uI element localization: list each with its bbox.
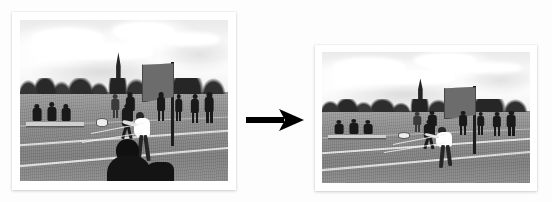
figure-leg [439, 145, 446, 168]
result-photo-image [322, 52, 530, 183]
figure-body [507, 115, 516, 127]
figure-leg [116, 110, 118, 119]
figure-player [414, 112, 421, 132]
cloud-shape [112, 23, 174, 39]
figure-leg [192, 112, 194, 123]
figure-leg [445, 145, 452, 167]
figure-body [364, 124, 373, 135]
figure-leg [176, 111, 178, 121]
figure-body [175, 99, 182, 112]
figure-seated [349, 119, 358, 137]
figure-player [112, 94, 119, 118]
figure-leg [508, 126, 510, 135]
figure-body [191, 99, 199, 113]
figure-body [47, 107, 56, 121]
figure-body [112, 99, 119, 110]
figure-player [191, 94, 199, 123]
figure-player [477, 112, 484, 134]
figure-body [157, 97, 165, 111]
figure-leg [498, 127, 500, 136]
figure-body [493, 116, 501, 127]
figure-leg [196, 112, 198, 123]
figure-leg [113, 110, 115, 119]
ball [398, 132, 410, 139]
figure-player [507, 111, 516, 136]
figure-seated [334, 120, 343, 137]
figure-leg [415, 125, 417, 132]
cloud-shape [468, 63, 522, 74]
figure-body [349, 123, 358, 135]
figure-player [205, 92, 214, 123]
figure-body [414, 116, 421, 125]
cloud-shape [414, 54, 476, 67]
cloud-shape [372, 72, 455, 84]
figure-description: A framed grayscale photograph of a schoo… [0, 0, 1, 1]
figure-leg [143, 135, 151, 162]
figure-body [459, 115, 467, 126]
source-photo-frame[interactable]: Original photograph [12, 12, 236, 190]
figure-canvas: Image downscaling illustration A framed … [0, 0, 552, 202]
figure-blurred-body [145, 162, 174, 181]
result-photo-frame[interactable]: Resized photograph [315, 45, 537, 191]
figure-leg [210, 111, 212, 123]
figure-player [175, 94, 182, 121]
arrow-icon [246, 109, 304, 131]
figure-title: Image downscaling illustration [0, 0, 1, 1]
transformation-arrow [246, 106, 306, 134]
figure-body [62, 108, 71, 121]
figure-leg [481, 126, 483, 134]
source-photo-image [20, 20, 228, 181]
figure-leg [418, 125, 420, 132]
ball [96, 118, 108, 126]
figure-seated [47, 102, 56, 125]
figure-leg [494, 127, 496, 136]
figure-body [477, 116, 484, 126]
figure-leg [478, 126, 480, 134]
figure-body [32, 108, 41, 121]
figure-body [334, 124, 343, 135]
figure-seated [32, 104, 41, 125]
figure-leg [512, 126, 514, 135]
cloud-shape [70, 45, 153, 59]
figure-body [205, 97, 214, 112]
figure-seated [62, 104, 71, 125]
cloud-shape [166, 33, 220, 46]
figure-seated [364, 120, 373, 137]
figure-player [493, 112, 501, 136]
figure-leg [179, 111, 181, 121]
figure-leg [206, 111, 208, 123]
